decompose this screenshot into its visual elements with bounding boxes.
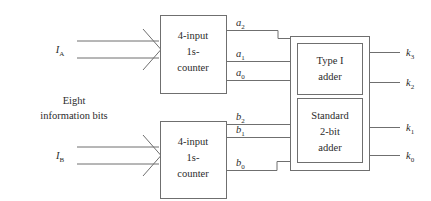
output-k2-sub: 2 — [411, 83, 415, 91]
signal-a2-sub: 2 — [241, 23, 245, 31]
caption-line-1: Eight — [63, 95, 86, 106]
signal-b1-label: b1 — [236, 124, 245, 138]
counter-b-line-1: 4-input — [178, 136, 208, 147]
signal-b0-label: b0 — [236, 157, 245, 171]
input-a-arrowhead — [143, 29, 161, 70]
signal-b0-sub: 0 — [241, 163, 245, 171]
block-diagram: IA IB Eight information bits 4-input 1s-… — [0, 0, 431, 201]
input-arrow-a — [77, 29, 161, 70]
output-k0-sub: 0 — [411, 156, 415, 164]
counter-b-line-3: counter — [177, 168, 209, 179]
signal-a0-sub: 0 — [241, 73, 245, 81]
input-b-sub: B — [59, 156, 64, 164]
type-1-adder-box — [298, 44, 363, 95]
standard-adder-line-3: adder — [318, 142, 342, 153]
counter-a-line-3: counter — [177, 62, 209, 73]
standard-adder-line-1: Standard — [311, 110, 349, 121]
standard-adder-line-2: 2-bit — [320, 126, 340, 137]
caption-line-2: information bits — [40, 110, 107, 121]
input-b-label: IB — [55, 150, 65, 164]
counter-b-line-2: 1s- — [187, 152, 200, 163]
type-1-adder-line-2: adder — [318, 71, 342, 82]
signal-b1-sub: 1 — [241, 130, 245, 138]
wire-a2 — [227, 31, 290, 39]
signal-b2-label: b2 — [236, 111, 245, 125]
input-b-arrowhead — [143, 135, 161, 176]
counter-a-line-2: 1s- — [187, 46, 200, 57]
diagram-canvas: IA IB Eight information bits 4-input 1s-… — [0, 0, 431, 201]
input-a-sub: A — [59, 50, 64, 58]
signal-b2-sub: 2 — [241, 117, 245, 125]
output-k3-label: k3 — [406, 47, 415, 61]
signal-a1-label: a1 — [236, 48, 245, 62]
signal-a2-label: a2 — [236, 17, 245, 31]
output-k0-label: k0 — [406, 150, 415, 164]
output-k3-sub: 3 — [411, 53, 415, 61]
signal-a1-sub: 1 — [241, 54, 245, 62]
output-k1-sub: 1 — [411, 128, 415, 136]
input-arrow-b — [77, 135, 161, 176]
signal-a0-label: a0 — [236, 67, 245, 81]
counter-a-line-1: 4-input — [178, 30, 208, 41]
output-k2-label: k2 — [406, 77, 415, 91]
type-1-adder-line-1: Type I — [317, 55, 344, 66]
output-k1-label: k1 — [406, 122, 415, 136]
input-a-label: IA — [55, 44, 65, 58]
